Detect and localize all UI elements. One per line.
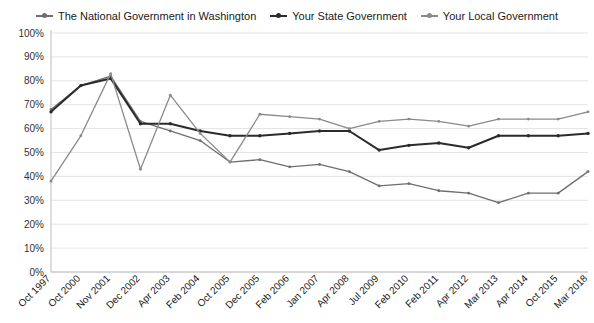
data-point	[229, 161, 232, 164]
x-axis-tick-label: Mar 2013	[462, 272, 500, 310]
data-point	[288, 115, 291, 118]
data-point	[557, 192, 560, 195]
legend-label-national: The National Government in Washington	[58, 11, 256, 22]
legend-item-national[interactable]: The National Government in Washington	[36, 11, 256, 22]
data-point	[467, 146, 470, 149]
data-point	[169, 130, 172, 133]
legend-marker-line-icon	[270, 11, 287, 21]
data-point	[527, 134, 530, 137]
data-point	[318, 163, 321, 166]
data-point	[199, 132, 202, 135]
data-point	[408, 182, 411, 185]
data-point	[169, 94, 172, 97]
data-point	[497, 134, 500, 137]
x-axis-tick-label: Feb 2011	[403, 272, 440, 309]
data-point	[557, 118, 560, 121]
y-axis-tick-label: 70%	[24, 99, 44, 110]
legend-marker-line-icon	[36, 11, 53, 21]
data-point	[199, 139, 202, 142]
y-axis-tick-label: 50%	[24, 147, 44, 158]
data-point	[586, 132, 589, 135]
data-point	[497, 201, 500, 204]
legend-label-state: Your State Government	[292, 11, 407, 22]
data-point	[139, 122, 142, 125]
chart-legend: The National Government in Washington Yo…	[0, 6, 594, 26]
data-point	[228, 134, 231, 137]
legend-marker-line-icon	[421, 11, 438, 21]
data-point	[587, 110, 590, 113]
data-point	[378, 185, 381, 188]
y-axis-tick-label: 20%	[24, 219, 44, 230]
legend-item-state[interactable]: Your State Government	[270, 11, 407, 22]
data-point	[467, 125, 470, 128]
data-point	[556, 134, 559, 137]
y-axis-tick-label: 100%	[18, 28, 44, 39]
data-point	[288, 165, 291, 168]
y-axis-tick-label: 40%	[24, 171, 44, 182]
data-point	[437, 189, 440, 192]
data-point	[169, 122, 172, 125]
y-axis-tick-label: 90%	[24, 51, 44, 62]
x-axis-tick-label: Mar 2018	[552, 272, 590, 310]
data-series	[49, 72, 589, 204]
plot-area: 0%10%20%30%40%50%60%70%80%90%100% Oct 19…	[0, 26, 594, 276]
data-point	[377, 148, 380, 151]
data-point	[258, 113, 261, 116]
data-point	[437, 141, 440, 144]
data-point	[437, 120, 440, 123]
data-point	[288, 132, 291, 135]
chart-svg: 0%10%20%30%40%50%60%70%80%90%100% Oct 19…	[0, 26, 594, 323]
x-axis-tick-labels: Oct 1997Oct 2000Nov 2001Dec 2002Apr 2003…	[16, 272, 590, 310]
data-point	[49, 110, 52, 113]
data-point	[318, 129, 321, 132]
data-point	[139, 168, 142, 171]
data-point	[497, 118, 500, 121]
data-point	[79, 84, 82, 87]
data-point	[587, 170, 590, 173]
data-point	[407, 144, 410, 147]
axis-lines	[51, 30, 588, 272]
data-point	[258, 134, 261, 137]
data-point	[348, 127, 351, 130]
data-point	[109, 72, 112, 75]
data-point	[318, 118, 321, 121]
legend-item-local[interactable]: Your Local Government	[421, 11, 558, 22]
legend-label-local: Your Local Government	[443, 11, 558, 22]
y-axis-tick-label: 60%	[24, 123, 44, 134]
y-axis-tick-label: 10%	[24, 243, 44, 254]
y-axis-tick-labels: 0%10%20%30%40%50%60%70%80%90%100%	[18, 28, 44, 278]
data-point	[79, 134, 82, 137]
x-axis-tick-label: Apr 2008	[314, 272, 351, 309]
data-point	[408, 118, 411, 121]
grid-lines	[51, 33, 588, 272]
data-point	[50, 180, 53, 183]
data-point	[348, 170, 351, 173]
y-axis-tick-label: 80%	[24, 75, 44, 86]
chart-container: The National Government in Washington Yo…	[0, 0, 594, 323]
data-point	[527, 192, 530, 195]
data-point	[378, 120, 381, 123]
data-point	[467, 192, 470, 195]
data-point	[258, 158, 261, 161]
x-axis-tick-label: Feb 2004	[164, 272, 202, 310]
data-point	[527, 118, 530, 121]
y-axis-tick-label: 30%	[24, 195, 44, 206]
